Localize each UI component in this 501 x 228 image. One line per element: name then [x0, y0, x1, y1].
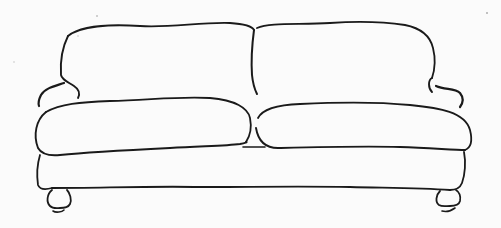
seat-cushion-left-front	[36, 112, 247, 155]
seat-cushion-right	[258, 103, 471, 150]
sofa-base-bottom	[52, 187, 450, 190]
arm-right	[436, 86, 463, 107]
sofa-base-left	[37, 155, 52, 189]
paper-specks	[13, 12, 488, 63]
back-cushion-left-side	[61, 36, 79, 98]
seat-cushion-left	[46, 97, 251, 142]
leg-right	[436, 190, 460, 211]
back-cushion-right-side	[429, 78, 432, 92]
leg-left	[48, 190, 71, 212]
back-cushion-right	[257, 22, 435, 78]
sofa-drawing	[0, 0, 501, 228]
arm-left	[39, 83, 64, 106]
back-cushion-left	[68, 23, 254, 36]
sofa-base-right	[450, 152, 465, 190]
sofa-sketch-canvas: Pencil line sketch of a two-seat sofa	[0, 0, 501, 228]
back-cushion-divider	[252, 30, 257, 94]
seat-cushion-right-front	[256, 128, 465, 150]
